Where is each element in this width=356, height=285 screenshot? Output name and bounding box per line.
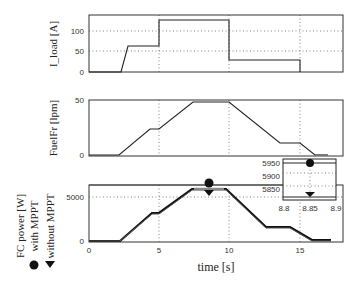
plot-iload-axes bbox=[89, 15, 343, 72]
y-tick: 50 bbox=[75, 47, 84, 56]
inset-x-tick: 8.9 bbox=[330, 204, 342, 213]
y-tick: 100 bbox=[71, 27, 85, 36]
x-tick: 5 bbox=[157, 246, 162, 255]
plot-iload: 0 50 100 I_load [A] bbox=[47, 15, 343, 77]
y-tick: 50 bbox=[75, 96, 84, 105]
with-mppt-marker bbox=[205, 179, 214, 188]
legend-with-mppt-label: with MPPT bbox=[28, 200, 40, 251]
chart-figure: 0 50 100 I_load [A] 0 50 FuelFr [lpm] 0 … bbox=[0, 0, 356, 285]
plot-fuelfr: 0 50 FuelFr [lpm] bbox=[47, 96, 343, 160]
iload-series bbox=[89, 20, 300, 72]
inset-y-tick: 5900 bbox=[262, 172, 280, 181]
inset-zoom: 5950 5900 5850 8.8 8.85 8.9 bbox=[262, 159, 342, 213]
x-tick: 10 bbox=[225, 246, 234, 255]
y-tick: 0 bbox=[80, 68, 85, 77]
inset-x-tick: 8.8 bbox=[278, 204, 290, 213]
x-tick: 0 bbox=[87, 246, 92, 255]
y-tick: 0 bbox=[80, 237, 85, 246]
y-tick: 0 bbox=[80, 151, 85, 160]
y-axis-label-fc-power: FC power [W] bbox=[14, 194, 26, 258]
without-mppt-marker bbox=[204, 190, 214, 196]
legend-triangle-icon bbox=[45, 261, 55, 268]
x-tick: 15 bbox=[296, 246, 305, 255]
x-axis-label: time [s] bbox=[198, 260, 235, 274]
y-axis-label-fuelfr: FuelFr [lpm] bbox=[47, 100, 59, 157]
inset-y-tick: 5850 bbox=[262, 185, 280, 194]
y-tick: 5000 bbox=[66, 193, 84, 202]
inset-x-tick: 8.85 bbox=[302, 204, 318, 213]
legend-circle-icon bbox=[30, 261, 39, 270]
fuelfr-series bbox=[89, 102, 327, 155]
inset-with-mppt-marker bbox=[306, 159, 314, 167]
inset-y-tick: 5950 bbox=[262, 159, 280, 168]
legend-without-mppt-label: without MPPT bbox=[44, 193, 56, 258]
y-axis-label-iload: I_load [A] bbox=[47, 21, 59, 67]
